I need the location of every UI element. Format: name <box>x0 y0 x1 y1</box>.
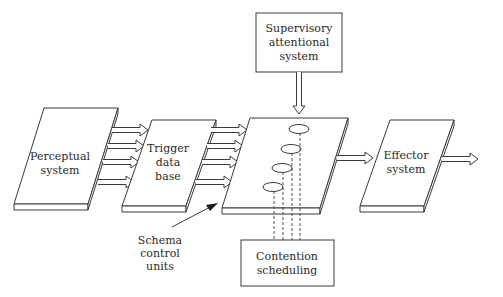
contention-line-2: scheduling <box>257 264 318 277</box>
effector-output-arrow <box>442 153 478 165</box>
supervisory-down-arrow <box>293 72 305 114</box>
schema-units-slab <box>222 118 348 240</box>
trigger-line-3: base <box>155 170 181 183</box>
supervisory-attentional-system-node: Supervisory attentional system <box>256 13 342 72</box>
supervisory-line-1: Supervisory <box>266 22 334 35</box>
contention-line-1: Contention <box>256 250 318 263</box>
schema-control-units-annotation: Schema control units <box>138 203 218 273</box>
schema-to-effector-arrow <box>337 152 373 164</box>
perceptual-line-1: Perceptual <box>30 150 90 163</box>
trigger-database-node: Trigger data base <box>122 120 216 212</box>
trigger-line-2: data <box>156 156 181 169</box>
annotation-line-3: units <box>146 260 174 273</box>
perceptual-system-node: Perceptual system <box>14 108 118 210</box>
trigger-line-1: Trigger <box>147 142 190 155</box>
perceptual-line-2: system <box>41 164 80 177</box>
annotation-line-1: Schema <box>138 234 183 247</box>
annotation-line-2: control <box>140 247 180 260</box>
diagram-canvas: Perceptual system Trigger data base <box>0 0 503 297</box>
effector-system-node: Effector system <box>360 120 454 212</box>
effector-line-2: system <box>387 163 426 176</box>
effector-line-1: Effector <box>384 149 430 162</box>
supervisory-line-2: attentional <box>269 36 330 49</box>
annotation-arrowhead-icon <box>206 203 218 211</box>
contention-scheduling-node: Contention scheduling <box>241 240 334 286</box>
supervisory-line-3: system <box>280 50 319 63</box>
